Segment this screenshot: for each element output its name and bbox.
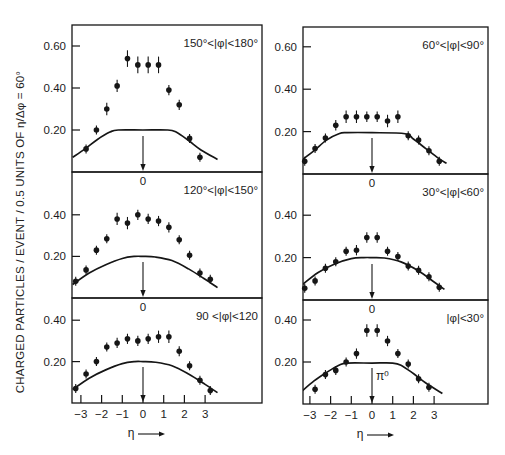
data-point — [416, 137, 422, 143]
data-point — [436, 284, 442, 290]
panel-middle-right: 0.200.40030°<|φ|<60° — [275, 174, 488, 315]
x-tick-label: −1 — [345, 409, 358, 421]
data-point — [187, 253, 193, 259]
data-point — [395, 351, 401, 357]
y-tick-label: 0.40 — [44, 209, 66, 221]
data-point — [333, 259, 339, 265]
data-point — [312, 146, 318, 152]
panel-title: 60°<|φ|<90° — [422, 39, 484, 51]
arrowhead-icon — [140, 164, 145, 171]
data-point — [343, 359, 349, 365]
data-point — [354, 247, 360, 253]
model-curve — [302, 258, 445, 290]
data-point — [312, 387, 318, 393]
x-tick-label: −2 — [324, 409, 337, 421]
data-point — [187, 363, 193, 369]
x-zero-label: 0 — [369, 177, 375, 189]
data-point — [73, 386, 79, 392]
panel-bottom-left: 0.200.40−3−2−10123η90 <|φ|<120 — [44, 298, 262, 440]
data-point — [104, 236, 110, 242]
data-point — [207, 276, 213, 282]
panel-top-left: 0.200.400.600150°<|φ|<180° — [44, 25, 262, 187]
data-point — [114, 340, 120, 346]
data-point — [416, 268, 422, 274]
y-tick-label: 0.20 — [275, 356, 297, 368]
data-point — [207, 388, 213, 394]
data-point — [145, 62, 151, 68]
data-point — [176, 102, 182, 108]
data-point — [176, 237, 182, 243]
panel-title: 30°<|φ|<60° — [422, 186, 484, 198]
y-tick-label: 0.60 — [275, 41, 297, 53]
x-tick-label: 0 — [140, 408, 146, 420]
data-point — [166, 334, 172, 340]
data-point — [302, 158, 308, 164]
data-point — [302, 286, 308, 292]
data-point — [94, 127, 100, 133]
panel-middle-left: 0.200.400120°<|φ|<150° — [44, 172, 262, 313]
data-point — [426, 148, 432, 154]
x-zero-label: 0 — [369, 303, 375, 315]
data-point — [405, 361, 411, 367]
data-point — [104, 344, 110, 350]
data-point — [156, 62, 162, 68]
data-point — [145, 336, 151, 342]
data-point — [343, 114, 349, 120]
data-point — [166, 87, 172, 93]
data-point — [405, 133, 411, 139]
data-point — [197, 377, 203, 383]
data-point — [125, 220, 131, 226]
data-point — [83, 146, 89, 152]
data-point — [135, 338, 141, 344]
data-point — [333, 368, 339, 374]
data-point — [73, 279, 79, 285]
x-tick-label: −3 — [74, 408, 87, 420]
data-point — [364, 235, 370, 241]
data-point — [323, 265, 329, 271]
data-point — [416, 376, 422, 382]
data-point — [104, 106, 110, 112]
panel-title: 90 <|φ|<120 — [196, 310, 258, 322]
x-tick-label: 0 — [369, 409, 375, 421]
data-point — [135, 62, 141, 68]
arrowhead-icon — [140, 290, 145, 297]
x-tick-label: 3 — [202, 408, 208, 420]
data-point — [374, 114, 380, 120]
data-point — [354, 114, 360, 120]
arrowhead-icon — [369, 292, 374, 299]
y-tick-label: 0.20 — [44, 356, 66, 368]
data-point — [94, 359, 100, 365]
data-point — [374, 328, 380, 334]
y-tick-label: 0.20 — [275, 126, 297, 138]
data-point — [197, 155, 203, 161]
y-tick-label: 0.60 — [44, 40, 66, 52]
x-tick-label: −3 — [303, 409, 316, 421]
data-point — [395, 254, 401, 260]
x-tick-label: −2 — [95, 408, 108, 420]
y-tick-label: 0.20 — [275, 252, 297, 264]
data-point — [323, 135, 329, 141]
data-point — [374, 235, 380, 241]
y-tick-label: 0.40 — [275, 209, 297, 221]
data-point — [135, 212, 141, 218]
panel-title: 120°<|φ|<150° — [184, 184, 258, 196]
data-point — [166, 224, 172, 230]
y-tick-label: 0.40 — [44, 314, 66, 326]
data-point — [364, 328, 370, 334]
x-tick-label: 2 — [181, 408, 187, 420]
x-tick-label: 3 — [431, 409, 437, 421]
data-point — [385, 248, 391, 254]
panel-bottom-right: 0.200.40−3−2−10123η|φ|<30°π⁰ — [275, 300, 488, 441]
data-point — [156, 334, 162, 340]
data-point — [354, 351, 360, 357]
data-point — [197, 270, 203, 276]
x-axis-label: η — [357, 427, 364, 441]
model-curve — [73, 130, 218, 160]
data-point — [426, 274, 432, 280]
y-tick-label: 0.20 — [44, 250, 66, 262]
y-tick-label: 0.40 — [44, 82, 66, 94]
data-point — [83, 267, 89, 273]
data-point — [187, 136, 193, 142]
data-point — [436, 158, 442, 164]
data-point — [125, 336, 131, 342]
